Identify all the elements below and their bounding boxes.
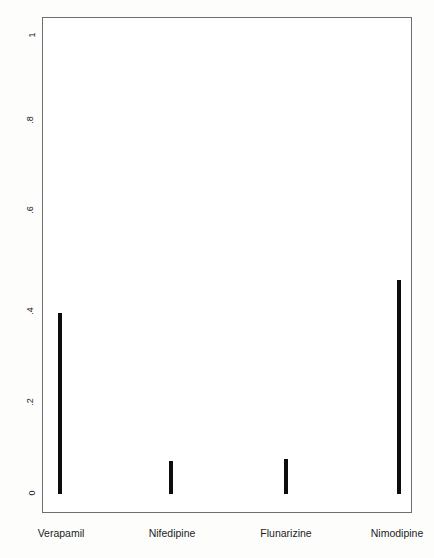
- bar-series: [43, 18, 411, 512]
- y-tick-text: .6: [25, 206, 35, 214]
- y-tick-label: .4: [0, 306, 34, 316]
- bar-flunarizine[interactable]: [284, 459, 288, 494]
- bar-verapamil[interactable]: [58, 313, 62, 494]
- y-tick-label: .8: [0, 115, 34, 125]
- y-tick-text: .4: [25, 307, 35, 315]
- bar-nifedipine[interactable]: [169, 461, 173, 494]
- bar-chart-figure: 0 .2 .4 .6 .8 1 Verapamil Nifedipine Flu…: [0, 0, 434, 558]
- y-tick-label: .6: [0, 205, 34, 215]
- y-tick-label: 1: [0, 30, 34, 40]
- y-tick-label: 0: [0, 488, 34, 498]
- plot-area: [43, 18, 411, 512]
- y-tick-text: .2: [25, 398, 35, 406]
- x-tick-label-nimodipine: Nimodipine: [371, 527, 424, 539]
- y-tick-label: .2: [0, 397, 34, 407]
- x-tick-label-nifedipine: Nifedipine: [149, 527, 196, 539]
- y-tick-text: 0: [26, 490, 36, 495]
- bar-nimodipine[interactable]: [397, 280, 401, 494]
- x-tick-label-flunarizine: Flunarizine: [260, 527, 311, 539]
- y-tick-text: .8: [25, 116, 35, 124]
- y-tick-text: 1: [26, 32, 36, 37]
- x-tick-label-verapamil: Verapamil: [38, 527, 85, 539]
